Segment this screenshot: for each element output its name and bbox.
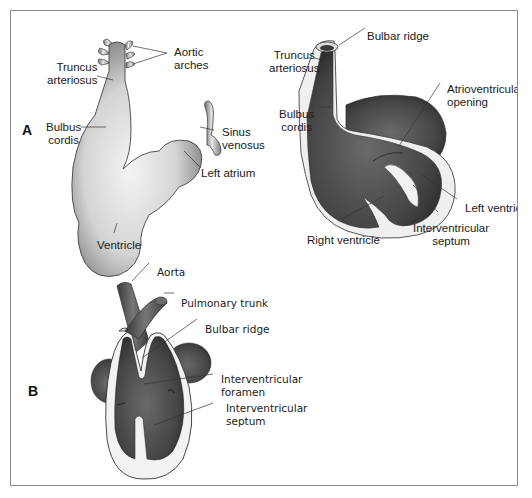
label-left-atrium: Left atrium (201, 167, 255, 180)
label-pulmonary-trunk: Pulmonary trunk (181, 297, 268, 310)
label-ventricle: Ventricle (97, 239, 141, 252)
panel-letter-b: B (28, 383, 38, 399)
label-interventricular-septum-a: Interventricular septum (413, 222, 489, 248)
label-right-ventricle: Right ventricle (307, 234, 380, 247)
label-bulbar-ridge-a2: Bulbar ridge (367, 30, 429, 43)
label-bulbus-cordis-a2: Bulbus cordis (279, 108, 314, 134)
label-aorta: Aorta (157, 266, 185, 279)
label-bulbus-cordis-a1: Bulbus cordis (46, 121, 81, 147)
label-truncus-arteriosus-a2: Truncus arteriosus (269, 49, 320, 75)
label-interventricular-foramen: Interventricular foramen (221, 373, 302, 399)
label-atrioventricular-opening: Atrioventricular opening (447, 83, 518, 109)
figure-frame: A B Truncus arteriosus Aortic arches Bul… (10, 10, 518, 486)
label-left-ventricle: Left ventric (465, 202, 518, 215)
panel-letter-a: A (22, 122, 32, 138)
label-truncus-arteriosus-a1: Truncus arteriosus (47, 61, 98, 87)
label-sinus-venosus: Sinus venosus (222, 126, 265, 152)
label-aortic-arches: Aortic arches (174, 46, 209, 72)
label-interventricular-septum-b: Interventricular septum (226, 402, 307, 428)
panel-b-heart (91, 282, 211, 479)
label-bulbar-ridge-b: Bulbar ridge (205, 323, 270, 336)
panel-a-right-heart (299, 41, 455, 239)
